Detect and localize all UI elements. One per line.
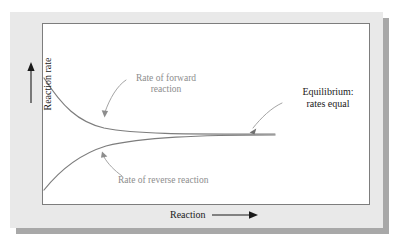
forward-reaction-annotation: Rate of forward reaction	[124, 73, 208, 95]
equilibrium-rate-figure: Rate of forward reaction Rate of reverse…	[0, 0, 397, 246]
x-axis-label: Reaction	[170, 209, 206, 221]
y-axis-label: Reaction rate	[42, 44, 54, 124]
equilibrium-annotation: Equilibrium: rates equal	[280, 86, 376, 109]
reverse-reaction-annotation: Rate of reverse reaction	[118, 175, 238, 186]
